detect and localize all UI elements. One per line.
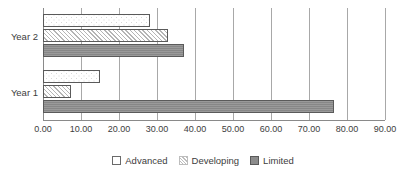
category-label-year2: Year 2 [0,31,38,42]
bar-chart: Year 2 Year 1 0.00 10.00 20.00 30.00 40.… [0,0,406,183]
x-tick-label-50: 50.00 [222,124,245,134]
gridline-90 [385,8,386,120]
category-label-year1: Year 1 [0,87,38,98]
legend-label-developing: Developing [192,155,240,166]
x-tick-label-0: 0.00 [34,124,52,134]
x-tick-label-90: 90.00 [374,124,397,134]
x-tick-label-60: 60.00 [260,124,283,134]
legend-item-advanced: Advanced [112,155,167,166]
x-tick-label-20: 20.00 [108,124,131,134]
x-tick-label-70: 70.00 [298,124,321,134]
gridline-80 [347,8,348,120]
legend-swatch-developing-icon [179,156,188,165]
legend-item-limited: Limited [250,155,294,166]
x-tick-label-80: 80.00 [336,124,359,134]
x-tick-label-40: 40.00 [184,124,207,134]
x-axis-line [43,120,385,121]
bar-year1-advanced [43,70,100,83]
chart-legend: Advanced Developing Limited [0,155,406,166]
legend-swatch-limited-icon [250,156,259,165]
bar-year1-limited [43,100,334,113]
plot-area [43,8,385,120]
legend-label-advanced: Advanced [125,155,167,166]
legend-label-limited: Limited [263,155,294,166]
bar-year2-advanced [43,14,150,27]
x-tick-label-30: 30.00 [146,124,169,134]
legend-item-developing: Developing [179,155,240,166]
bar-year2-limited [43,44,184,57]
legend-swatch-advanced-icon [112,156,121,165]
bar-year1-developing [43,85,71,98]
x-tick-label-10: 10.00 [70,124,93,134]
bar-year2-developing [43,29,168,42]
